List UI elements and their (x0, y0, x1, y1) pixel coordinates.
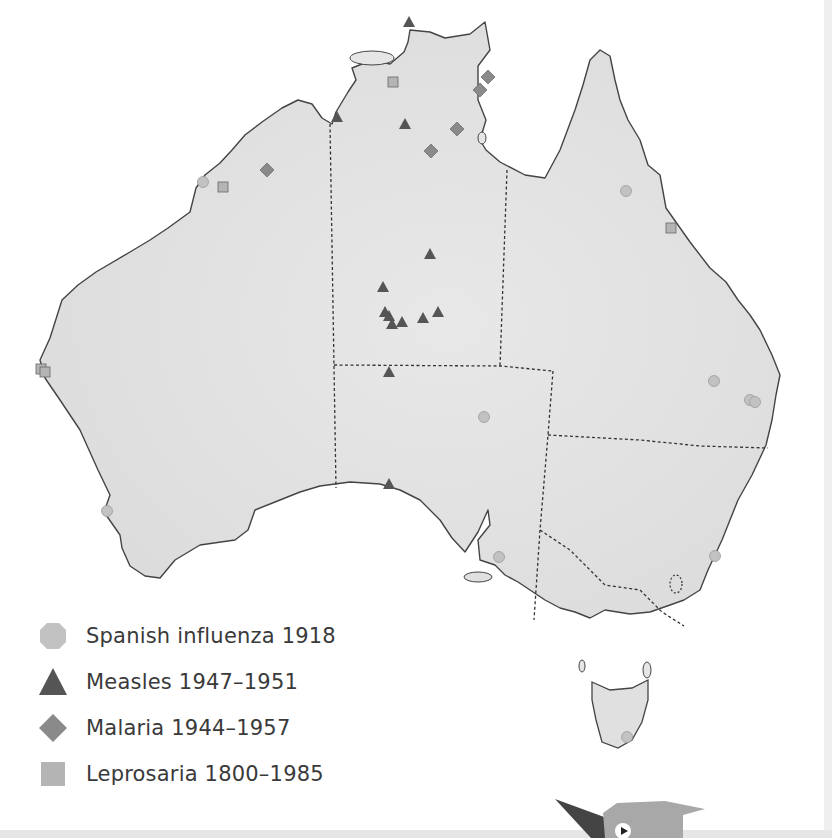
influenza-marker-icon (710, 551, 721, 562)
influenza-marker-icon (709, 376, 720, 387)
octagon-icon (36, 619, 70, 653)
kangaroo-island (464, 572, 492, 582)
legend-item-influenza: Spanish influenza 1918 (36, 613, 336, 659)
legend-item-malaria: Malaria 1944–1957 (36, 705, 336, 751)
malaria-marker-icon (481, 70, 495, 84)
groote-eylandt (478, 132, 486, 144)
influenza-marker-icon (621, 186, 632, 197)
leprosaria-marker-icon (40, 367, 50, 377)
legend: Spanish influenza 1918 Measles 1947–1951… (36, 613, 336, 797)
influenza-marker-icon (750, 397, 761, 408)
legend-item-measles: Measles 1947–1951 (36, 659, 336, 705)
king-island (579, 660, 585, 672)
right-edge-strip (824, 0, 832, 838)
leprosaria-marker-icon (218, 182, 228, 192)
legend-item-leprosaria: Leprosaria 1800–1985 (36, 751, 336, 797)
legend-label: Measles 1947–1951 (86, 670, 298, 694)
influenza-marker-icon (494, 552, 505, 563)
legend-label: Leprosaria 1800–1985 (86, 762, 324, 786)
influenza-marker-icon (479, 412, 490, 423)
triangle-icon (36, 665, 70, 699)
bird-mascot-icon (555, 795, 725, 838)
measles-marker-icon (403, 16, 415, 27)
legend-label: Spanish influenza 1918 (86, 624, 336, 648)
melville-island (350, 51, 394, 65)
square-icon (36, 757, 70, 791)
influenza-marker-icon (198, 177, 209, 188)
influenza-marker-icon (102, 506, 113, 517)
diamond-icon (36, 711, 70, 745)
leprosaria-marker-icon (666, 223, 676, 233)
tasmania (592, 680, 648, 748)
influenza-marker-icon (622, 732, 633, 743)
leprosaria-marker-icon (388, 77, 398, 87)
flinders-island (643, 662, 651, 678)
australia-mainland (40, 22, 780, 618)
legend-label: Malaria 1944–1957 (86, 716, 291, 740)
